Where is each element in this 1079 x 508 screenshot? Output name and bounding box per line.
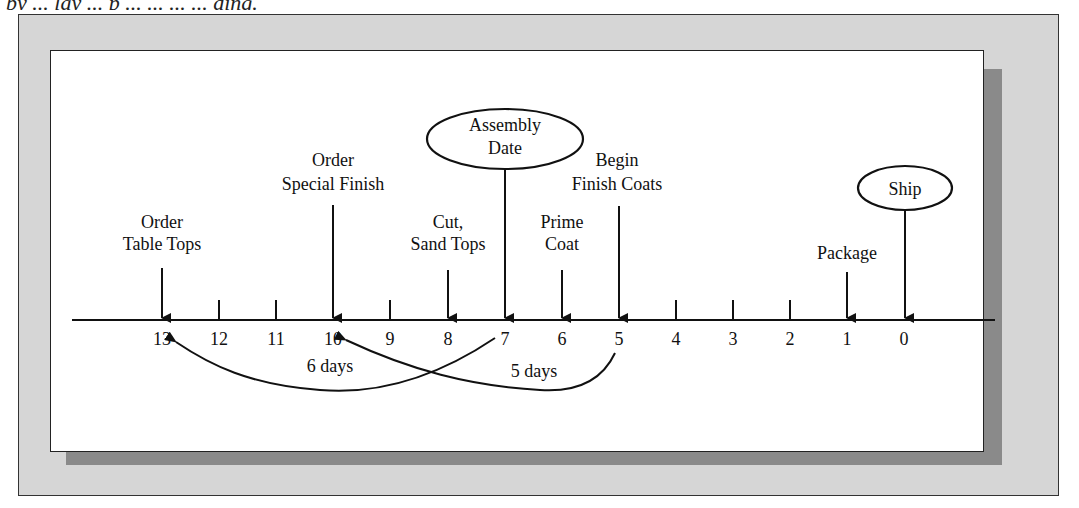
tick-label: 5 xyxy=(615,329,624,349)
svg-text:Coat: Coat xyxy=(545,234,579,254)
event-order-table-tops: Order Table Tops xyxy=(123,212,202,318)
tick-label: 1 xyxy=(843,329,852,349)
svg-text:Finish Coats: Finish Coats xyxy=(572,174,663,194)
tick-label: 9 xyxy=(386,329,395,349)
event-begin-finish-coats: Begin Finish Coats xyxy=(572,150,663,318)
axis-tick-labels: 13 12 11 10 9 8 7 6 5 4 3 2 1 0 xyxy=(153,329,909,349)
svg-text:Begin: Begin xyxy=(596,150,639,170)
event-package: Package xyxy=(817,243,877,318)
tick-label: 12 xyxy=(210,329,228,349)
tick-label: 3 xyxy=(729,329,738,349)
tick-label: 10 xyxy=(324,329,342,349)
event-prime-coat: Prime Coat xyxy=(541,212,584,318)
svg-text:Order: Order xyxy=(141,212,183,232)
milestone-ship: Ship xyxy=(858,166,952,318)
tick-label: 6 xyxy=(558,329,567,349)
svg-text:Package: Package xyxy=(817,243,877,263)
svg-text:5 days: 5 days xyxy=(511,361,558,381)
timeline-diagram: 13 12 11 10 9 8 7 6 5 4 3 2 1 0 Order Ta… xyxy=(0,0,1079,508)
svg-text:Prime: Prime xyxy=(541,212,584,232)
svg-text:Order: Order xyxy=(312,150,354,170)
svg-text:Sand Tops: Sand Tops xyxy=(411,234,486,254)
svg-text:6 days: 6 days xyxy=(307,356,354,376)
tick-label: 7 xyxy=(501,329,510,349)
tick-label: 13 xyxy=(153,329,171,349)
svg-text:Cut,: Cut, xyxy=(433,212,464,232)
tick-label: 8 xyxy=(444,329,453,349)
svg-text:Table Tops: Table Tops xyxy=(123,234,202,254)
tick-label: 0 xyxy=(900,329,909,349)
tick-label: 2 xyxy=(786,329,795,349)
svg-text:Special Finish: Special Finish xyxy=(282,174,385,194)
tick-label: 11 xyxy=(267,329,284,349)
tick-label: 4 xyxy=(672,329,681,349)
svg-text:Assembly: Assembly xyxy=(469,115,541,135)
event-cut-sand-tops: Cut, Sand Tops xyxy=(411,212,486,318)
event-order-special-finish: Order Special Finish xyxy=(282,150,385,318)
svg-text:Date: Date xyxy=(488,138,522,158)
svg-text:Ship: Ship xyxy=(888,179,921,199)
